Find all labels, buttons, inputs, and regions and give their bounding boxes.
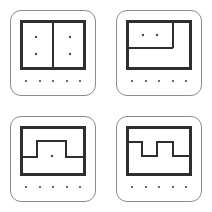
room-dot <box>156 34 158 36</box>
outer-wall <box>22 128 85 175</box>
card-cell-plan-plateau <box>0 106 106 212</box>
footer-dot <box>66 186 68 188</box>
footer-dot <box>39 80 41 82</box>
footer-dot-row <box>131 186 187 188</box>
footer-dot <box>145 80 147 82</box>
icon-grid <box>0 0 212 212</box>
card-cell-plan-square-wave <box>106 106 212 212</box>
footer-dot <box>39 186 41 188</box>
floorplan-square-wave <box>116 116 202 202</box>
floorplan-split-vertical <box>10 10 96 96</box>
footer-dot <box>66 80 68 82</box>
footer-dot <box>172 186 174 188</box>
footer-dot <box>131 80 133 82</box>
footer-dot <box>25 186 27 188</box>
card-cell-plan-corner-room <box>106 0 212 106</box>
footer-dot <box>79 186 81 188</box>
floorplan-corner-room <box>116 10 202 96</box>
footer-dot <box>25 80 27 82</box>
room-dot <box>35 36 37 38</box>
outer-wall <box>128 128 191 175</box>
floorplan-plateau <box>10 116 96 202</box>
footer-dot <box>158 186 160 188</box>
footer-dot-row <box>131 80 187 82</box>
footer-dot-row <box>25 80 81 82</box>
footer-dot <box>79 80 81 82</box>
footer-dot <box>52 80 54 82</box>
room-dot <box>142 34 144 36</box>
footer-dot <box>52 186 54 188</box>
room-dot <box>35 53 37 55</box>
footer-dot <box>172 80 174 82</box>
footer-dot <box>131 186 133 188</box>
footer-dot-row <box>25 186 81 188</box>
room-dot <box>69 53 71 55</box>
room-dot <box>51 155 53 157</box>
inner-wall-polyline <box>20 141 86 157</box>
outer-wall <box>128 22 191 69</box>
footer-dot <box>185 80 187 82</box>
room-dot <box>69 36 71 38</box>
footer-dot <box>158 80 160 82</box>
card-cell-plan-split-vertical <box>0 0 106 106</box>
footer-dot <box>145 186 147 188</box>
footer-dot <box>185 186 187 188</box>
inner-wall-polyline <box>126 142 192 156</box>
